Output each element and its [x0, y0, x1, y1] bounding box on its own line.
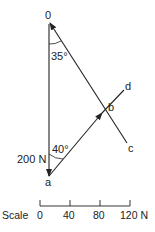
point-label-d: d [125, 80, 131, 92]
force-diagram: 0 a b c d 35° 40° 200 N Scale 0 40 80 12… [0, 0, 155, 232]
scale-tick-120n: 120 N [120, 209, 148, 221]
angle-arc-35 [49, 41, 61, 44]
angle-label-35: 35° [51, 50, 68, 62]
scale-tick-80: 80 [93, 209, 105, 221]
point-label-b: b [108, 101, 114, 113]
scale-tick-40: 40 [63, 209, 75, 221]
scale-tick-0: 0 [37, 209, 43, 221]
point-label-a: a [45, 176, 52, 188]
force-label-200n: 200 N [17, 153, 46, 165]
scale-bar [40, 200, 130, 206]
point-label-0: 0 [45, 9, 51, 21]
force-line-c-0 [50, 23, 127, 143]
scale-title: Scale [2, 209, 28, 221]
angle-label-40: 40° [52, 143, 69, 155]
point-label-c: c [128, 142, 134, 154]
